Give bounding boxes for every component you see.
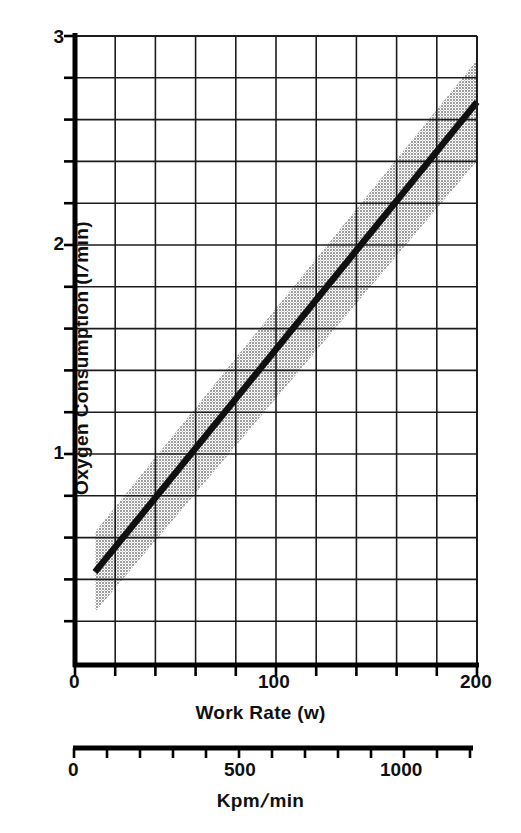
- plot-area: [0, 0, 521, 800]
- regression-line: [95, 102, 477, 572]
- chart-figure: Oxygen Consumption (l/min) 3 2 1 0 100 2…: [0, 0, 521, 833]
